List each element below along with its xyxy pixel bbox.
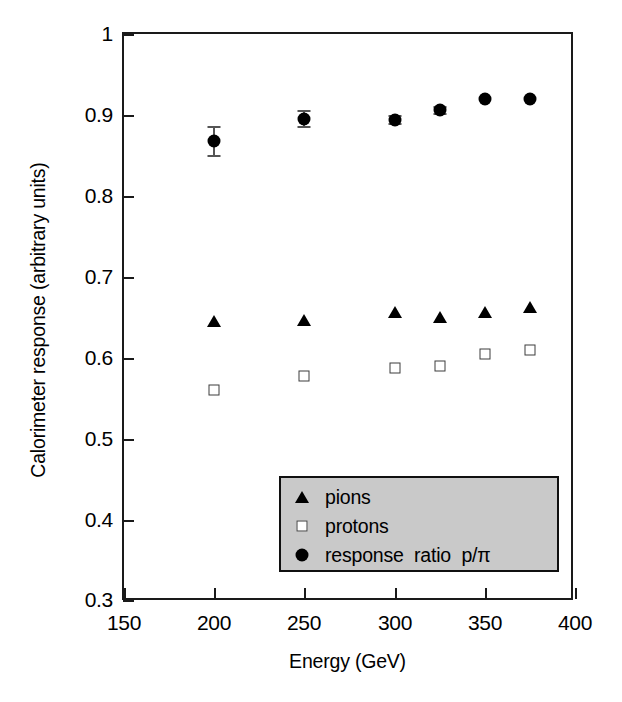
x-tick-label-300: 300: [378, 611, 412, 635]
data-point-triangle: [207, 315, 221, 327]
data-point-circle: [388, 114, 401, 127]
data-point-circle: [523, 92, 536, 105]
data-point-circle: [478, 92, 491, 105]
data-point-triangle: [297, 314, 311, 326]
y-tick-label-0p3: 0.3: [85, 588, 113, 612]
y-tick-label-0p6: 0.6: [85, 346, 113, 370]
x-tick-400: [575, 588, 577, 599]
legend-label-pions: pions: [325, 486, 371, 509]
y-tick-label-0p7: 0.7: [85, 265, 113, 289]
y-tick-0p5: [123, 439, 134, 441]
legend-entry-protons: protons: [281, 511, 557, 541]
legend-label-protons: protons: [325, 515, 389, 538]
legend-entry-response-ratio: response ratio p/π: [281, 540, 557, 570]
data-point-square: [209, 385, 220, 396]
filled-circle-icon: [281, 540, 325, 570]
y-tick-0p3: [123, 600, 134, 602]
y-tick-0p9: [123, 115, 134, 117]
legend-label-response-ratio: response ratio p/π: [325, 544, 491, 567]
chart-legend: pions protons response ratio p/π: [279, 476, 559, 572]
data-point-triangle: [523, 301, 537, 313]
x-tick-label-150: 150: [107, 611, 141, 635]
data-point-square: [434, 360, 445, 371]
x-tick-label-250: 250: [287, 611, 321, 635]
error-bar-cap: [208, 155, 221, 157]
y-tick-0p8: [123, 196, 134, 198]
data-point-triangle: [478, 306, 492, 318]
data-point-square: [479, 348, 490, 359]
data-point-triangle: [388, 306, 402, 318]
data-point-circle: [433, 104, 446, 117]
x-tick-350: [485, 588, 487, 599]
data-point-triangle: [433, 311, 447, 323]
data-point-square: [389, 363, 400, 374]
y-axis-title: Calorimeter response (arbitrary units): [18, 40, 58, 600]
x-tick-label-350: 350: [468, 611, 502, 635]
y-axis-title-text: Calorimeter response (arbitrary units): [27, 162, 50, 477]
data-point-square: [524, 345, 535, 356]
legend-entry-pions: pions: [281, 482, 557, 512]
y-tick-0p6: [123, 358, 134, 360]
error-bar-cap: [208, 126, 221, 128]
y-tick-0p4: [123, 520, 134, 522]
data-point-circle: [208, 135, 221, 148]
x-tick-label-200: 200: [197, 611, 231, 635]
data-point-circle: [298, 113, 311, 126]
x-tick-300: [395, 588, 397, 599]
x-tick-200: [214, 588, 216, 599]
open-square-icon: [281, 511, 325, 541]
x-tick-250: [304, 588, 306, 599]
error-bar-cap: [298, 126, 311, 128]
y-tick-label-1p0: 1: [102, 22, 113, 46]
y-tick-1p0: [123, 34, 134, 36]
x-tick-150: [124, 588, 126, 599]
y-tick-label-0p9: 0.9: [85, 103, 113, 127]
data-point-square: [299, 371, 310, 382]
y-tick-label-0p8: 0.8: [85, 184, 113, 208]
y-tick-0p7: [123, 277, 134, 279]
x-axis-title: Energy (GeV): [122, 650, 573, 673]
figure-canvas: Calorimeter response (arbitrary units) 1…: [0, 0, 622, 702]
filled-triangle-icon: [281, 482, 325, 512]
y-tick-label-0p4: 0.4: [85, 508, 113, 532]
plot-area: 1 0.9 0.8 0.7 0.6 0.5 0.4 0.3 150 200 25…: [122, 32, 573, 600]
x-tick-label-400: 400: [558, 611, 592, 635]
y-tick-label-0p5: 0.5: [85, 427, 113, 451]
